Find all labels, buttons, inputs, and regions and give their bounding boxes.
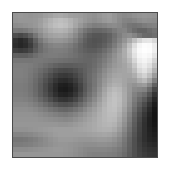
figure-root bbox=[0, 0, 169, 178]
raster-image-canvas bbox=[13, 13, 157, 157]
image-frame bbox=[12, 12, 158, 158]
